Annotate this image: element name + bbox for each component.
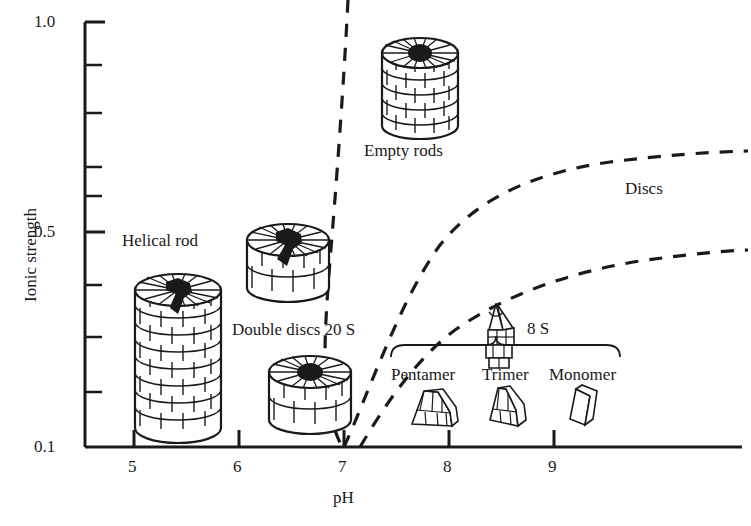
x-axis-title: pH — [333, 489, 354, 506]
x-tick-label-5: 5 — [128, 458, 137, 475]
helical-rod-cylinder — [135, 274, 221, 443]
y-axis-minor-ticks — [85, 65, 102, 392]
pentamer-wedge — [412, 389, 458, 426]
species-label-monomer: Monomer — [549, 366, 616, 383]
x-tick-label-6: 6 — [233, 458, 242, 475]
double-disc-lower — [269, 356, 351, 434]
8s-aggregate — [486, 304, 514, 368]
y-axis-title: Ionic strength — [22, 208, 39, 302]
x-tick-label-8: 8 — [443, 458, 452, 475]
x-tick-label-9: 9 — [548, 458, 557, 475]
region-label-double-discs: Double discs 20 S — [232, 321, 355, 338]
region-label-discs: Discs — [625, 180, 663, 197]
empty-rod-cylinder — [382, 38, 458, 139]
trimer-wedge — [490, 386, 526, 426]
x-tick-label-7: 7 — [338, 458, 347, 475]
phase-diagram-figure: 1.0 0.5 0.1 5 6 7 8 9 pH Ionic strength … — [0, 0, 751, 526]
y-tick-label-0.1: 0.1 — [34, 438, 55, 455]
y-axis-major-ticks — [85, 22, 105, 232]
double-disc-upper — [247, 224, 329, 302]
region-label-empty-rods: Empty rods — [364, 142, 443, 159]
monomer-wedge — [570, 385, 597, 425]
species-label-8s: 8 S — [527, 320, 549, 337]
y-tick-label-1.0: 1.0 — [34, 13, 55, 30]
region-label-helical-rod: Helical rod — [122, 232, 198, 249]
species-label-pentamer: Pentamer — [391, 366, 455, 383]
boundary-disc-upper — [344, 151, 748, 447]
plot-canvas — [0, 0, 751, 526]
species-label-trimer: Trimer — [482, 366, 529, 383]
